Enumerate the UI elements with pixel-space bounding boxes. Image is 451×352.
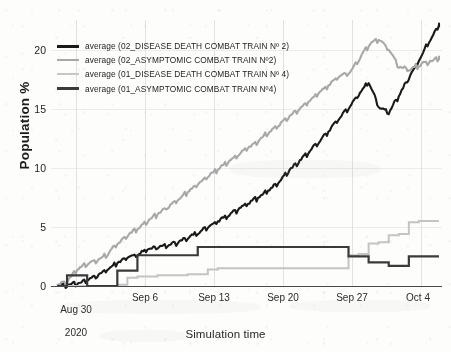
y-tick-5: 5: [0, 221, 46, 233]
x-tick-sep20: Sep 20: [267, 292, 299, 304]
x-tick-sep27: Sep 27: [336, 292, 368, 304]
legend-item-1[interactable]: average (02_ASYMPTOMIC COMBAT TRAIN Nº2): [57, 53, 289, 67]
y-tick-20: 20: [0, 44, 46, 56]
legend-label-2: average (01_DISEASE DEATH COMBAT TRAIN N…: [85, 69, 289, 79]
legend-item-0[interactable]: average (02_DISEASE DEATH COMBAT TRAIN N…: [57, 39, 289, 53]
y-tick-15: 15: [0, 103, 46, 115]
x-tick-sep6: Sep 6: [132, 292, 158, 304]
chart-figure: Population % 20 15 10 5 0 Aug 30 2020 Se…: [0, 0, 451, 352]
x-tick-oct4: Oct 4: [406, 292, 430, 304]
legend-item-2[interactable]: average (01_DISEASE DEATH COMBAT TRAIN N…: [57, 67, 289, 81]
x-tick-aug30-line1: Aug 30: [60, 304, 92, 316]
x-axis-title: Simulation time: [0, 328, 451, 340]
legend-swatch-icon-3: [57, 87, 79, 90]
series-line-2: [57, 221, 439, 286]
legend-label-3: average (01_ASYMPTOMIC COMBAT TRAIN Nº4): [85, 84, 276, 94]
legend-swatch-icon-1: [57, 59, 79, 61]
legend: average (02_DISEASE DEATH COMBAT TRAIN N…: [57, 39, 289, 96]
series-line-3: [57, 247, 439, 286]
x-axis-line: [51, 286, 442, 287]
y-tick-10: 10: [0, 162, 46, 174]
legend-swatch-icon-2: [57, 73, 79, 75]
legend-label-1: average (02_ASYMPTOMIC COMBAT TRAIN Nº2): [85, 55, 276, 65]
x-tick-aug30: Aug 30 2020: [60, 292, 92, 350]
legend-label-0: average (02_DISEASE DEATH COMBAT TRAIN N…: [85, 41, 289, 51]
legend-item-3[interactable]: average (01_ASYMPTOMIC COMBAT TRAIN Nº4): [57, 82, 289, 96]
legend-swatch-icon-0: [57, 45, 79, 48]
y-tick-0: 0: [0, 280, 46, 292]
x-tick-sep13: Sep 13: [198, 292, 230, 304]
